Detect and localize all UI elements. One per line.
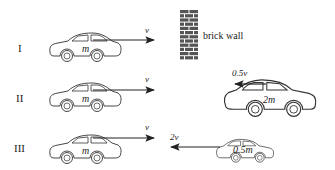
collision-diagram: I m v brick wall II m v 2m 0.5v III m v [0,0,335,170]
brick [180,35,189,38]
brick [190,52,199,55]
car-mass-label: m [82,93,89,104]
brick [180,31,184,34]
brick [190,27,199,30]
brick [180,48,184,51]
brick-wall-icon [180,10,198,59]
scenario-3: III m v 0.5m 2v [14,122,274,164]
scenario-label: II [16,92,24,104]
brick [190,10,199,13]
scenario-label: III [14,142,25,154]
velocity-label: 2v [170,132,179,142]
car-mass-label: m [82,43,89,54]
velocity-label: v [145,74,149,84]
brick [180,39,184,42]
brick [194,23,198,26]
brick [194,31,198,34]
velocity-label: v [145,25,149,35]
brick [185,23,193,26]
brick [190,44,199,47]
scenario-2: II m v 2m 0.5v [16,68,316,116]
brick [194,14,198,17]
brick [185,39,193,42]
car-mass-label: 0.5m [233,144,253,155]
brick [185,31,193,34]
brick [194,56,198,59]
velocity-label: 0.5v [232,68,247,78]
brick [194,39,198,42]
brick [180,10,189,13]
brick [194,48,198,51]
brick [180,18,189,21]
velocity-label: v [145,122,149,132]
brick [190,18,199,21]
brick [180,14,184,17]
brick [180,23,184,26]
car-mass-label: 2m [263,94,275,105]
car-mass-label: m [82,145,89,156]
scenario-1: I m v brick wall [18,10,243,62]
brick [180,56,184,59]
brick [185,14,193,17]
brick [180,44,189,47]
brick-wall-label: brick wall [203,30,243,41]
brick [185,48,193,51]
brick [185,56,193,59]
brick [180,27,189,30]
brick [190,35,199,38]
scenario-label: I [18,42,22,54]
brick [180,52,189,55]
